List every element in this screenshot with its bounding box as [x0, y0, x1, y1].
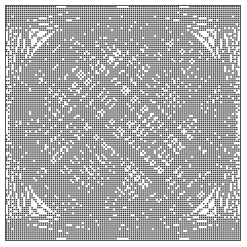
- figure-root: [0, 0, 247, 247]
- plot-frame: [5, 5, 241, 241]
- dot-scatter-canvas: [6, 6, 240, 240]
